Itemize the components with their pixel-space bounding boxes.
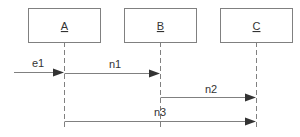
message-e1[interactable]: e1 [14, 57, 64, 77]
object-label-c: C [253, 20, 261, 32]
object-c[interactable]: C [221, 9, 293, 43]
object-b[interactable]: B [125, 9, 197, 43]
arrowhead-icon [245, 118, 256, 126]
sequence-diagram: A B C e1 n1 n2 n3 [0, 0, 300, 137]
object-label-b: B [157, 20, 164, 32]
message-label-n1: n1 [109, 58, 121, 70]
arrowhead-icon [245, 94, 256, 102]
message-n1[interactable]: n1 [65, 58, 161, 78]
object-label-a: A [61, 20, 69, 32]
arrowhead-icon [53, 69, 64, 77]
arrowhead-icon [149, 70, 160, 78]
object-a[interactable]: A [29, 9, 101, 43]
message-n2[interactable]: n2 [161, 83, 257, 102]
message-label-n3: n3 [154, 106, 166, 118]
message-label-n2: n2 [205, 83, 217, 95]
message-label-e1: e1 [32, 57, 44, 69]
